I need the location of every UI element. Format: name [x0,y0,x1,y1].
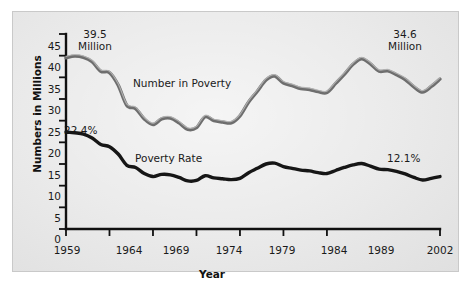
series-line-poverty-rate [66,132,440,181]
chart-screenshot: Numbers in Millions Year 45 40 35 30 25 … [0,0,471,283]
plot-area [0,0,471,283]
